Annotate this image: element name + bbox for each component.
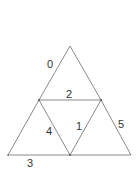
edge-3-label: 3 [27,157,33,169]
edge-4-label: 4 [46,125,52,137]
edge-4-line [39,100,70,155]
vertex-mid-left [38,99,40,101]
triangle-diagram: 0 1 2 3 4 5 [0,0,138,174]
vertex-bottom-left [7,154,9,156]
edge-left-lower-line [8,100,39,155]
vertex-bottom-mid [69,154,71,156]
edge-1-label: 1 [76,120,82,132]
edge-0-label: 0 [47,58,53,70]
edge-5-line [101,100,131,155]
edge-1-line [70,100,101,155]
edge-5-label: 5 [118,118,124,130]
edge-apex-right-line [70,46,101,100]
vertex-mid-right [100,99,102,101]
edge-2-label: 2 [66,88,72,100]
